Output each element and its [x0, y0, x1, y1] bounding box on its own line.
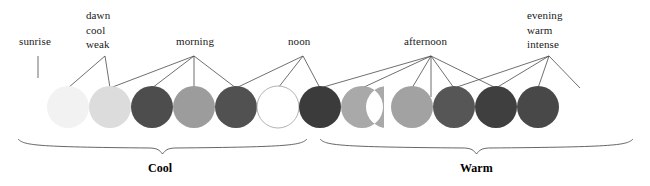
annotation-label-morning: morning [176, 35, 214, 48]
annotation-line: morning [176, 35, 214, 47]
color-swatch-6 [257, 86, 299, 128]
color-swatch-3 [131, 86, 173, 128]
connector-noon [303, 56, 320, 88]
connector-afternoon [412, 56, 431, 88]
color-swatch-7 [299, 86, 341, 128]
color-swatch-circles-group [47, 85, 559, 129]
annotation-label-noon: noon [288, 35, 310, 48]
group-label-cool: Cool [148, 161, 172, 176]
color-swatch-12 [517, 86, 559, 128]
annotation-line: noon [288, 35, 310, 47]
annotation-line: evening [527, 9, 563, 21]
connector-afternoon [431, 56, 496, 88]
color-swatch-4 [173, 86, 215, 128]
annotation-label-dawn: dawn cool weak [86, 8, 110, 52]
annotation-line: intense [527, 38, 559, 50]
color-swatch-9 [391, 86, 433, 128]
connector-dawn [68, 56, 105, 88]
connector-afternoon [320, 56, 431, 88]
annotation-label-afternoon: afternoon [404, 35, 447, 48]
color-swatch-5 [215, 86, 257, 128]
connector-noon [236, 56, 303, 88]
connector-morning [152, 56, 194, 88]
annotation-line: dawn [86, 9, 110, 21]
color-swatch-11 [475, 86, 517, 128]
annotation-line: warm [527, 24, 552, 36]
color-swatch-2 [89, 86, 131, 128]
annotation-label-evening: evening warm intense [527, 8, 563, 52]
annotation-line: cool [86, 24, 105, 36]
annotation-line: weak [86, 38, 110, 50]
color-swatch-8 [340, 85, 384, 129]
brace-cool [18, 139, 307, 154]
color-swatch-1 [47, 86, 89, 128]
connector-evening [549, 56, 580, 88]
daylight-color-temperature-diagram: sunrise dawn cool weak morning noon afte… [0, 0, 650, 186]
connector-morning [194, 56, 236, 88]
annotation-line: sunrise [19, 35, 51, 47]
connector-evening [496, 56, 549, 88]
connector-evening [538, 56, 549, 88]
connector-evening [454, 56, 549, 88]
brace-warm [320, 139, 633, 154]
connector-afternoon [362, 56, 431, 88]
connector-lines-group [38, 56, 580, 97]
connector-morning [110, 56, 194, 88]
group-label-warm: Warm [460, 161, 493, 176]
connector-afternoon [431, 56, 454, 88]
connector-noon [278, 56, 303, 88]
annotation-label-sunrise: sunrise [19, 35, 51, 48]
connector-dawn [105, 56, 110, 88]
group-braces [18, 139, 633, 154]
color-swatch-10 [433, 86, 475, 128]
annotation-line: afternoon [404, 35, 447, 47]
